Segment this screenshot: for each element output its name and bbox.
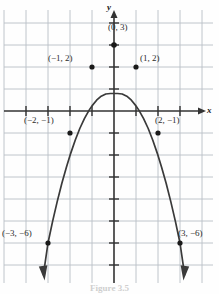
- point-label-right-upper: (1, 2): [140, 53, 160, 63]
- y-axis-arrowhead: [111, 10, 118, 18]
- point-label-vertex: (0, 3): [108, 22, 128, 32]
- data-point: [155, 130, 160, 135]
- point-label-right-mid: (2, −1): [155, 115, 180, 125]
- point-label-left-mid: (−2, −1): [24, 115, 54, 125]
- point-label-right-lower: (3, −6): [178, 228, 203, 238]
- y-axis-label: y: [107, 2, 111, 12]
- data-point: [133, 64, 138, 69]
- point-label-left-lower: (−3, −6): [2, 228, 32, 238]
- curve-left-arrowhead: [39, 265, 48, 280]
- point-label-left-upper: (−1, 2): [48, 53, 73, 63]
- figure-caption: Figure 3.5: [0, 283, 219, 294]
- data-point: [177, 240, 182, 245]
- data-point: [89, 64, 94, 69]
- coordinate-plane: [0, 0, 219, 294]
- data-point: [45, 240, 50, 245]
- curve-right-arrowhead: [181, 265, 190, 280]
- vertical-gridlines: [4, 10, 202, 283]
- data-point: [67, 130, 72, 135]
- figure-parabola-graph: x y (0, 3) (−1, 2) (1, 2) (−2, −1) (2, −…: [0, 0, 219, 294]
- x-axis-label: x: [207, 105, 212, 115]
- data-point: [111, 42, 117, 48]
